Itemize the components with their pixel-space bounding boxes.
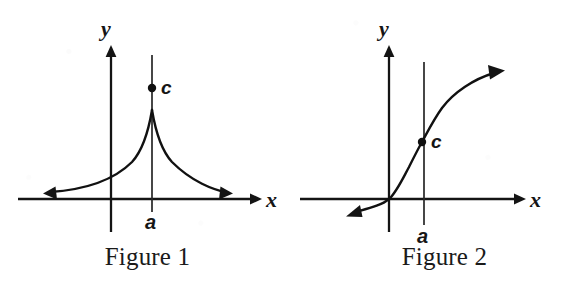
figures-container: c a x y Figure 1 c: [0, 0, 574, 286]
figure-1-curve-left-arrowhead: [43, 187, 57, 200]
figure-2-graph: c a x y: [287, 0, 574, 250]
figure-2-curve-right-arrowhead: [488, 65, 505, 80]
figure-2-point-c-label: c: [431, 131, 442, 152]
figure-2-curve-left-arrowhead: [346, 205, 363, 217]
figure-1-curve-left-branch: [50, 110, 152, 192]
figure-1-x-axis-arrowhead: [250, 193, 262, 204]
figure-1-curve-right-branch: [152, 110, 226, 192]
figure-2-y-axis-arrowhead: [384, 45, 395, 57]
figure-1-x-axis-label: x: [265, 187, 277, 212]
figure-1-point-c-marker: [148, 84, 156, 92]
figure-2-caption: Figure 2: [287, 243, 574, 271]
figure-1-y-axis-arrowhead: [106, 45, 117, 57]
figure-2-point-c-marker: [418, 138, 426, 146]
figure-2-x-axis-label: x: [529, 187, 541, 212]
figure-1-y-axis-label: y: [98, 16, 111, 41]
figure-1-curve-right-arrowhead: [219, 187, 233, 200]
figure-2-y-axis-label: y: [376, 16, 389, 41]
figure-2-x-axis-arrowhead: [514, 193, 526, 204]
figure-1-panel: c a x y Figure 1: [0, 0, 287, 286]
figure-1-graph: c a x y: [0, 0, 287, 250]
figure-1-tick-label-a: a: [145, 211, 156, 233]
figure-1-caption: Figure 1: [0, 243, 291, 271]
figure-1-point-c-label: c: [161, 77, 172, 98]
figure-2-panel: c a x y Figure 2: [287, 0, 574, 286]
